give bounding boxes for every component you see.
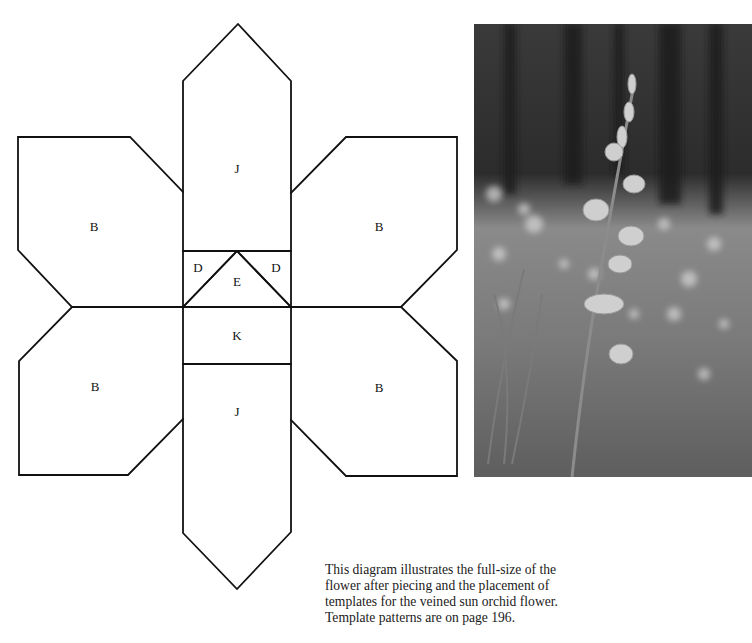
template-b-lower-left [19, 307, 183, 475]
template-j-top [183, 24, 291, 251]
label-k-center: K [232, 328, 242, 343]
template-b-upper-left [18, 137, 183, 307]
orchid-photo [474, 24, 752, 477]
label-b-upper-right: B [375, 219, 384, 234]
label-j-top: J [234, 161, 239, 176]
label-d-right: D [271, 260, 280, 275]
label-b-upper-left: B [90, 219, 99, 234]
label-j-bottom: J [234, 404, 239, 419]
label-b-lower-left: B [91, 379, 100, 394]
template-d-right [237, 251, 291, 307]
label-b-lower-right: B [375, 380, 384, 395]
template-j-bottom [183, 364, 291, 589]
piecing-diagram: J B B D D E K B B J [0, 0, 470, 600]
label-d-left: D [193, 260, 202, 275]
figure-caption: This diagram illustrates the full-size o… [325, 562, 575, 626]
label-e-center: E [233, 274, 241, 289]
